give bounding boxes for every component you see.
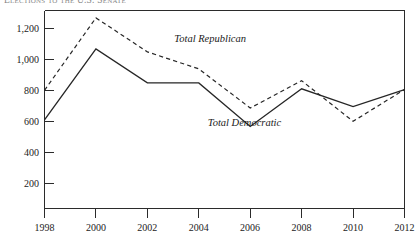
y-axis-labels: 200 400 600 800 1,000 1,200: [17, 23, 40, 189]
x-tick-label: 1998: [35, 222, 55, 233]
y-tick-label: 200: [24, 178, 39, 189]
x-axis-labels: 1998 2000 2002 2004 2006 2008 2010 2012: [35, 222, 415, 233]
chart-figure: Elections to the U.S. Senate 200 400 600…: [0, 0, 418, 242]
y-tick-label: 1,200: [17, 23, 40, 34]
y-tick-label: 1,000: [17, 54, 40, 65]
x-tick-label: 2002: [137, 222, 157, 233]
series-line-total-democratic: [45, 49, 405, 127]
x-tick-label: 2010: [343, 222, 363, 233]
y-axis-ticks: [45, 29, 54, 184]
x-tick-label: 2008: [292, 222, 312, 233]
series-annotation-total-republican: Total Republican: [174, 33, 246, 44]
x-tick-label: 2012: [395, 222, 415, 233]
x-tick-label: 2006: [240, 222, 260, 233]
line-chart-plot: 200 400 600 800 1,000 1,200 1998 2000 20…: [0, 0, 418, 242]
series-annotation-total-democratic: Total Democratic: [208, 117, 282, 128]
y-tick-label: 800: [24, 85, 39, 96]
x-axis-ticks: [45, 209, 405, 218]
y-tick-label: 400: [24, 147, 39, 158]
x-tick-label: 2000: [86, 222, 106, 233]
y-tick-label: 600: [24, 116, 39, 127]
x-tick-label: 2004: [189, 222, 209, 233]
